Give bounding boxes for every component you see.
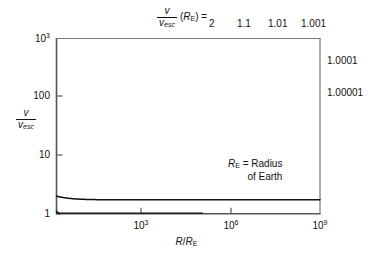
data-curves [57, 196, 321, 214]
figure-root: v vesc (RE) = 2 1.1 1.01 1.001 v vesc 10… [0, 0, 373, 263]
axis-ticks [57, 96, 232, 214]
curve-2 [57, 196, 321, 200]
plot-canvas [0, 0, 373, 263]
plot-frame [56, 38, 321, 215]
